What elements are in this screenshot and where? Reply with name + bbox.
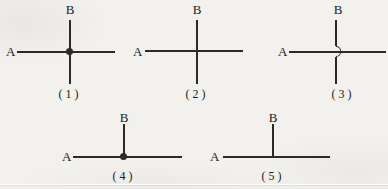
diagram-caption: (4) <box>113 169 136 183</box>
wire-hop-arc-icon <box>336 46 341 57</box>
junction-dot-icon <box>66 48 73 55</box>
diagram-caption: (2) <box>186 87 209 101</box>
diagram-caption: (1) <box>59 87 82 101</box>
label-b: B <box>66 2 75 17</box>
label-b: B <box>269 110 278 125</box>
label-b: B <box>120 110 129 125</box>
vertical-wire <box>196 20 198 84</box>
horizontal-wire <box>145 50 243 52</box>
junction-dot-icon <box>120 153 127 160</box>
horizontal-wire <box>73 156 182 158</box>
label-a: A <box>210 149 219 164</box>
diagram-caption: (5) <box>262 169 285 183</box>
label-a: A <box>62 149 71 164</box>
label-a: A <box>133 44 142 59</box>
scan-page-edge-line <box>0 184 388 185</box>
wire-junction-figure: B A (1) B A (2) B A (3) B A (4) B A <box>0 0 388 189</box>
vertical-wire <box>272 124 274 157</box>
label-a: A <box>278 44 287 59</box>
label-a: A <box>6 44 15 59</box>
diagram-caption: (3) <box>332 87 355 101</box>
vertical-wire-lower <box>335 57 337 84</box>
label-b: B <box>334 2 343 17</box>
vertical-wire-upper <box>335 20 337 46</box>
horizontal-wire <box>223 156 330 158</box>
label-b: B <box>193 2 202 17</box>
